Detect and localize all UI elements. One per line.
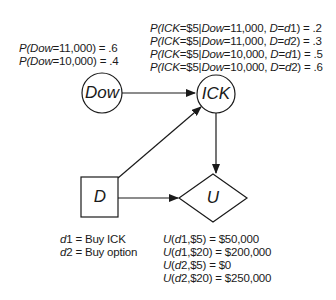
node-ick-label: ICK bbox=[202, 84, 230, 104]
dow-probability-row: P(Dow=11,000) = .6 bbox=[19, 42, 118, 55]
ick-probability-row: P(ICK=$5|Dow=10,000, D=d1) = .5 bbox=[150, 48, 323, 61]
ick-probability-row: P(ICK=$5|Dow=11,000, D=d1) = .2 bbox=[150, 22, 323, 35]
utility-row: U(d2,$5) = $0 bbox=[163, 259, 271, 272]
ick-probability-table: P(ICK=$5|Dow=11,000, D=d1) = .2 P(ICK=$5… bbox=[150, 22, 323, 74]
utility-row: U(d1,$20) = $200,000 bbox=[163, 246, 271, 259]
ick-probability-row: P(ICK=$5|Dow=11,000, D=d2) = .3 bbox=[150, 35, 323, 48]
utility-row: U(d2,$20) = $250,000 bbox=[163, 272, 271, 285]
dow-probability-row: P(Dow=10,000) = .4 bbox=[19, 55, 118, 68]
decision-definition-row: d1 = Buy ICK bbox=[60, 233, 137, 246]
edge-d-to-ick bbox=[118, 107, 201, 178]
node-d-label: D bbox=[94, 187, 106, 207]
utility-row: U(d1,$5) = $50,000 bbox=[163, 233, 271, 246]
ick-probability-row: P(ICK=$5|Dow=10,000, D=d2) = .6 bbox=[150, 61, 323, 74]
dow-probability-table: P(Dow=11,000) = .6 P(Dow=10,000) = .4 bbox=[19, 42, 118, 68]
decision-definition-row: d2 = Buy option bbox=[60, 246, 137, 259]
utility-table: U(d1,$5) = $50,000 U(d1,$20) = $200,000 … bbox=[163, 233, 271, 285]
node-u-label: U bbox=[207, 188, 219, 208]
node-dow-label: Dow bbox=[85, 83, 119, 103]
decision-definitions: d1 = Buy ICK d2 = Buy option bbox=[60, 233, 137, 259]
